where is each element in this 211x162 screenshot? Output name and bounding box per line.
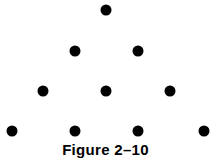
dot-row4-2 <box>70 126 81 137</box>
dot-row3-3 <box>165 86 176 97</box>
dot-row2-1 <box>70 46 81 57</box>
dot-row3-1 <box>38 86 49 97</box>
dot-row4-3 <box>133 126 144 137</box>
dot-row1-1 <box>101 5 112 16</box>
figure-caption: Figure 2–10 <box>0 141 211 158</box>
dot-row2-2 <box>133 46 144 57</box>
dot-row4-1 <box>7 126 18 137</box>
dot-row3-2 <box>101 86 112 97</box>
dot-row4-4 <box>199 126 210 137</box>
